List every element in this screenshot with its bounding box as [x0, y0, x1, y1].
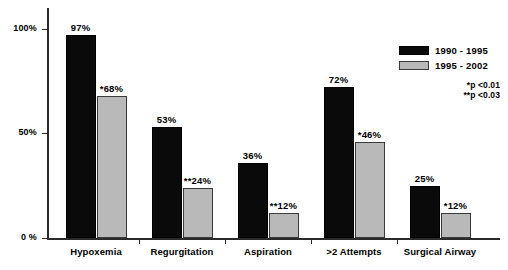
bar-value-label: 53% — [143, 114, 191, 125]
bar-surgical-airway-series-2 — [441, 213, 471, 238]
x-axis-tick — [397, 240, 398, 244]
bar--2-attempts-series-2 — [355, 142, 385, 238]
x-axis-tick — [139, 240, 140, 244]
bar-regurgitation-series-2 — [183, 188, 213, 238]
legend: 1990 - 19951995 - 2002 — [399, 44, 488, 74]
bar-value-label: *68% — [88, 83, 136, 94]
x-axis-label-surgical-airway: Surgical Airway — [397, 246, 483, 257]
y-axis-tick-label: 0 % — [2, 232, 37, 242]
bar-value-label: *46% — [346, 129, 394, 140]
bar-aspiration-series-2 — [269, 213, 299, 238]
bar-value-label: 72% — [315, 74, 363, 85]
y-axis-tick-label: 100% — [2, 23, 37, 33]
legend-item-1: 1990 - 1995 — [399, 44, 488, 56]
x-axis-line — [47, 238, 500, 240]
bar-chart: 0 %50%100% 97%*68%53%**24%36%**12%72%*46… — [0, 0, 508, 270]
x-axis-label-hypoxemia: Hypoxemia — [53, 246, 139, 257]
legend-label: 1995 - 2002 — [435, 60, 488, 71]
bar--2-attempts-series-1 — [324, 87, 354, 238]
bar-value-label: **12% — [260, 200, 308, 211]
footnote-p-lt-003: **p <0.03 — [399, 90, 500, 100]
legend-swatch-dark — [399, 46, 429, 55]
legend-swatch-light — [399, 61, 429, 70]
y-axis-tick-label: 50% — [2, 127, 37, 137]
bar-value-label: **24% — [174, 175, 222, 186]
x-axis-label--2-attempts: >2 Attempts — [311, 246, 397, 257]
bar-hypoxemia-series-1 — [66, 35, 96, 238]
bar-value-label: *12% — [432, 200, 480, 211]
plot-area: 97%*68%53%**24%36%**12%72%*46%25%*12% — [47, 8, 500, 238]
x-axis-tick — [311, 240, 312, 244]
x-axis-tick — [225, 240, 226, 244]
footnotes: *p <0.01 **p <0.03 — [399, 80, 500, 100]
bar-hypoxemia-series-2 — [97, 96, 127, 238]
bar-surgical-airway-series-1 — [410, 186, 440, 238]
x-axis-label-regurgitation: Regurgitation — [139, 246, 225, 257]
bar-value-label: 97% — [57, 22, 105, 33]
footnote-p-lt-001: *p <0.01 — [399, 80, 500, 90]
bar-value-label: 36% — [229, 150, 277, 161]
legend-label: 1990 - 1995 — [435, 45, 488, 56]
bar-value-label: 25% — [401, 173, 449, 184]
x-axis-label-aspiration: Aspiration — [225, 246, 311, 257]
legend-item-2: 1995 - 2002 — [399, 59, 488, 71]
y-axis-tick — [42, 238, 48, 239]
